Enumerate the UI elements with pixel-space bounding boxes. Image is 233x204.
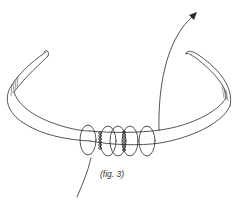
arrow-up-right-icon — [159, 12, 197, 130]
hatch-right — [222, 86, 228, 101]
figure-caption: (fig. 3) — [100, 169, 124, 179]
figure-canvas: (fig. 3) — [0, 0, 233, 204]
stitch-column-1 — [99, 132, 102, 150]
headband-outline — [7, 51, 230, 145]
loop-1 — [80, 125, 96, 155]
loops — [80, 125, 155, 156]
stitch-column-2 — [123, 131, 126, 152]
stitch-columns — [99, 131, 126, 152]
thread-tail — [77, 158, 91, 197]
loop-5 — [139, 126, 155, 156]
loop-2 — [100, 126, 116, 156]
